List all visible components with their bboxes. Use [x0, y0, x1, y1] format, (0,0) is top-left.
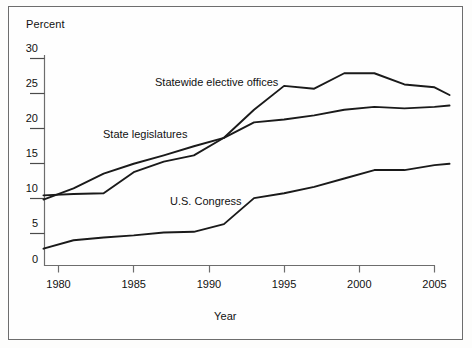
series-label-state-legislatures: State legislatures: [103, 128, 187, 140]
series-label-statewide-elective-offices: Statewide elective offices: [155, 76, 278, 88]
x-tick-label-1995: 1995: [272, 278, 296, 290]
chart-plot-area: [0, 0, 472, 348]
chart-series-group: [43, 73, 449, 248]
y-tick-label-15: 15: [14, 147, 38, 159]
chart-figure: Percent Year 051015202530 19801985199019…: [0, 0, 472, 348]
y-tick-label-20: 20: [14, 112, 38, 124]
y-tick-label-0: 0: [14, 253, 38, 265]
series-line-state-legislatures: [43, 106, 449, 196]
series-label-us-congress: U.S. Congress: [170, 195, 242, 207]
y-axis-title: Percent: [26, 18, 65, 30]
x-tick-label-1985: 1985: [121, 278, 145, 290]
x-axis-title: Year: [214, 310, 237, 322]
x-axis-ticks: [59, 266, 435, 273]
y-tick-label-30: 30: [14, 42, 38, 54]
x-tick-label-2000: 2000: [347, 278, 371, 290]
x-tick-label-2005: 2005: [422, 278, 446, 290]
y-tick-label-5: 5: [14, 217, 38, 229]
series-line-u-s-congress: [43, 164, 449, 249]
x-tick-label-1980: 1980: [46, 278, 70, 290]
y-tick-label-10: 10: [14, 182, 38, 194]
x-tick-label-1990: 1990: [197, 278, 221, 290]
y-tick-label-25: 25: [14, 77, 38, 89]
